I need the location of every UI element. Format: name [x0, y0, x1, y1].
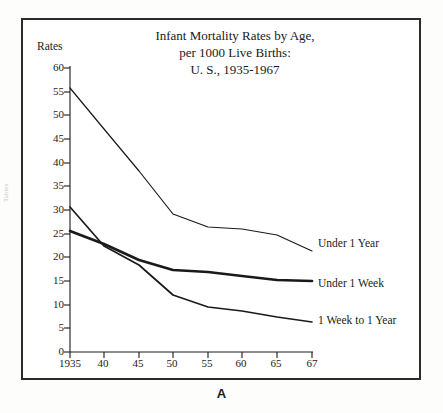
- x-tick-label-65: 65: [260, 357, 292, 369]
- page-edge-bleed-text: Tables: [2, 150, 14, 236]
- panel-caption: A: [0, 386, 443, 401]
- y-tick-label-15: 15: [38, 274, 64, 286]
- y-tick-label-60: 60: [38, 61, 64, 73]
- chart-title: Infant Mortality Rates by Age, per 1000 …: [120, 27, 350, 78]
- chart-title-line-2: per 1000 Live Births:: [120, 44, 350, 61]
- y-tick-label-20: 20: [38, 250, 64, 262]
- y-tick-label-35: 35: [38, 179, 64, 191]
- series-label-under-1-year: Under 1 Year: [318, 237, 379, 249]
- y-tick-label-30: 30: [38, 203, 64, 215]
- series-label-1-week-to-1-year: 1 Week to 1 Year: [318, 314, 396, 326]
- x-tick-label-1935: 1935: [52, 357, 88, 369]
- chart-title-line-3: U. S., 1935-1967: [120, 61, 350, 78]
- x-tick-label-55: 55: [191, 357, 223, 369]
- y-tick-label-55: 55: [38, 85, 64, 97]
- x-tick-label-45: 45: [122, 357, 154, 369]
- y-tick-label-25: 25: [38, 227, 64, 239]
- y-tick-label-5: 5: [38, 321, 64, 333]
- y-axis-label: Rates: [37, 40, 63, 52]
- y-tick-label-0: 0: [38, 345, 64, 357]
- x-tick-label-60: 60: [225, 357, 257, 369]
- series-label-under-1-week: Under 1 Week: [318, 277, 384, 289]
- y-tick-label-40: 40: [38, 156, 64, 168]
- x-tick-label-50: 50: [156, 357, 188, 369]
- x-tick-label-40: 40: [87, 357, 119, 369]
- y-tick-label-50: 50: [38, 108, 64, 120]
- y-tick-label-45: 45: [38, 132, 64, 144]
- x-tick-label-67: 67: [296, 357, 328, 369]
- figure-page: Tables Infant Mortality Rates by Age, pe…: [0, 0, 443, 413]
- y-tick-label-10: 10: [38, 298, 64, 310]
- chart-title-line-1: Infant Mortality Rates by Age,: [120, 27, 350, 44]
